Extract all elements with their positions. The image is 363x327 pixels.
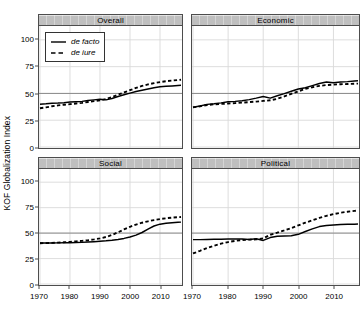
x-axis-bottom-left: 19701980199020002010	[38, 286, 183, 308]
legend-key-dashed-line	[50, 49, 67, 57]
plot-area-political	[191, 168, 360, 286]
y-tick-label: 50	[25, 229, 34, 238]
plot-area-economic	[191, 25, 360, 149]
legend-label-de-facto: de facto	[71, 37, 99, 46]
x-tick-label: 1970	[30, 292, 48, 301]
x-axis-bottom-right: 19701980199020002010	[191, 286, 360, 308]
y-tick-label: 75	[25, 62, 34, 71]
y-tick-label: 100	[21, 177, 34, 186]
x-tickmark	[334, 286, 335, 289]
legend-label-de-iure: de iure	[71, 48, 95, 57]
x-tickmark	[160, 286, 161, 289]
x-tickmark	[227, 286, 228, 289]
panel-strip-social: Social	[38, 157, 183, 168]
panel-social: Social	[38, 157, 183, 286]
y-axis-bottom: 0255075100	[0, 168, 38, 286]
x-tick-label: 2000	[121, 292, 139, 301]
y-tick-label: 25	[25, 255, 34, 264]
x-tick-label: 2000	[290, 292, 308, 301]
panel-economic: Economic	[191, 14, 360, 149]
x-tick-label: 1990	[91, 292, 109, 301]
x-tickmark	[263, 286, 264, 289]
x-tickmark	[39, 286, 40, 289]
legend-item-de-iure: de iure	[50, 47, 99, 58]
x-tickmark	[69, 286, 70, 289]
plot-area-social	[38, 168, 183, 286]
y-tick-label: 0	[30, 281, 34, 290]
y-tick-label: 50	[25, 89, 34, 98]
legend-key-solid-line	[50, 38, 67, 46]
y-tick-label: 0	[30, 144, 34, 153]
x-tickmark	[192, 286, 193, 289]
y-tick-label: 75	[25, 203, 34, 212]
panel-title-political: Political	[261, 159, 290, 168]
x-tick-label: 1970	[183, 292, 201, 301]
panel-title-economic: Economic	[257, 16, 294, 25]
x-tickmark	[130, 286, 131, 289]
x-tickmark	[99, 286, 100, 289]
panel-title-overall: Overall	[97, 16, 124, 25]
x-tick-label: 2010	[325, 292, 343, 301]
panel-overall: Overall de facto de iure	[38, 14, 183, 149]
x-tick-label: 1980	[61, 292, 79, 301]
plot-area-overall: de facto de iure	[38, 25, 183, 149]
panel-strip-political: Political	[191, 157, 360, 168]
y-tick-label: 25	[25, 116, 34, 125]
legend-item-de-facto: de facto	[50, 36, 99, 47]
x-tickmark	[298, 286, 299, 289]
panel-strip-economic: Economic	[191, 14, 360, 25]
x-tick-label: 2010	[152, 292, 170, 301]
x-tick-label: 1980	[219, 292, 237, 301]
legend: de facto de iure	[45, 32, 105, 62]
panel-grid: Overall de facto de iure	[38, 14, 360, 286]
kof-globalization-chart: KOF Globalization Index 0255075100 02550…	[0, 0, 363, 327]
panel-title-social: Social	[99, 159, 122, 168]
y-axis-top: 0255075100	[0, 25, 38, 149]
panel-strip-overall: Overall	[38, 14, 183, 25]
x-tick-label: 1990	[254, 292, 272, 301]
y-tick-label: 100	[21, 35, 34, 44]
panel-political: Political	[191, 157, 360, 286]
